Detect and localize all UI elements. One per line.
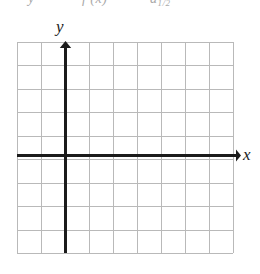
coordinate-grid-figure: y x (0, 0, 260, 274)
x-axis-arrowhead (236, 150, 241, 162)
axes (17, 41, 241, 253)
x-axis-label: x (243, 146, 251, 163)
y-axis-label: y (56, 18, 64, 35)
grid-lines (17, 42, 234, 254)
coordinate-grid-svg (0, 0, 260, 274)
